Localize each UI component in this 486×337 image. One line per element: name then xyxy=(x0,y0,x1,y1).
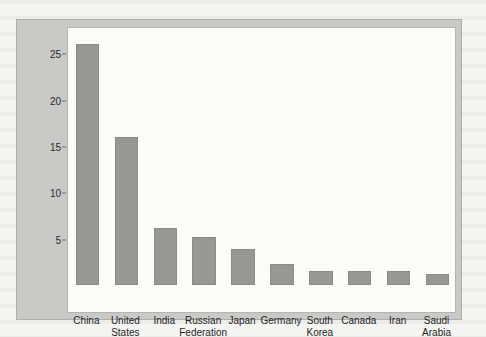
y-axis-tick-mark xyxy=(62,193,66,194)
x-axis-tick-label: Canada xyxy=(341,315,376,327)
bar xyxy=(270,264,293,285)
y-axis-tick-label: 15 xyxy=(50,141,61,152)
x-axis-tick-label: Japan xyxy=(228,315,255,327)
bar xyxy=(115,137,138,285)
y-axis-tick-group: 510152025 xyxy=(17,20,67,321)
x-axis-tick-label: South Korea xyxy=(307,315,334,337)
y-axis-tick-mark xyxy=(62,239,66,240)
chart-figure-panel: Percent of Global CO2 Emissions 51015202… xyxy=(16,19,462,320)
bar xyxy=(348,271,371,285)
x-axis-tick-label: Saudi Arabia xyxy=(422,315,451,337)
x-axis-tick-label: Iran xyxy=(389,315,406,327)
bar xyxy=(76,44,99,285)
bar xyxy=(192,237,215,285)
y-axis-tick-mark xyxy=(62,100,66,101)
x-axis-tick-label: India xyxy=(153,315,175,327)
x-axis-tick-group: ChinaUnited StatesIndiaRussian Federatio… xyxy=(67,315,456,337)
bar xyxy=(231,249,254,285)
y-axis-tick-label: 25 xyxy=(50,49,61,60)
x-axis-tick-label: Germany xyxy=(260,315,301,327)
y-axis-tick-mark xyxy=(62,146,66,147)
bar xyxy=(309,271,332,285)
plot-area xyxy=(67,27,456,313)
bar-series xyxy=(68,28,455,312)
y-axis-tick-label: 10 xyxy=(50,188,61,199)
bar xyxy=(154,228,177,285)
bar xyxy=(387,271,410,285)
y-axis-tick-label: 20 xyxy=(50,95,61,106)
x-axis-tick-label: China xyxy=(73,315,99,327)
y-axis-tick-mark xyxy=(62,54,66,55)
x-axis-tick-label: Russian Federation xyxy=(179,315,227,337)
x-axis-tick-label: United States xyxy=(111,315,140,337)
bar xyxy=(426,274,449,285)
y-axis-tick-label: 5 xyxy=(55,234,61,245)
